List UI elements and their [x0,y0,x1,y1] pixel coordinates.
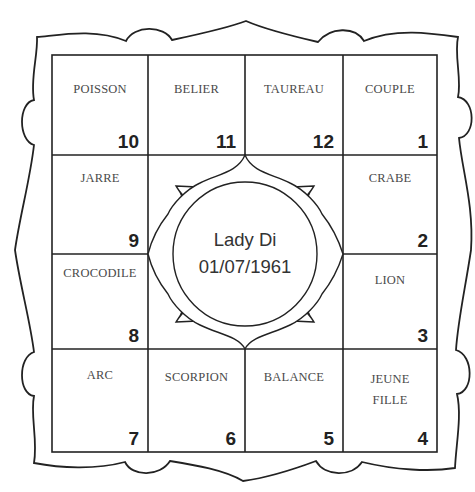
house-number: 11 [216,131,236,153]
house-number: 3 [417,325,428,347]
house-cell-2: CRABE 2 [343,155,437,254]
subject-name: Lady Di [185,229,305,251]
center-circle [173,182,317,326]
house-sign-label: CROCODILE [52,263,148,283]
house-sign-label: ARC [52,365,148,385]
house-sign-label: BALANCE [245,367,343,387]
house-cell-10: POISSON 10 [52,55,148,155]
house-cell-9: JARRE 9 [52,155,148,254]
house-cell-12: TAUREAU 12 [245,55,343,155]
lotus-zodiac-chart: POISSON 10 BELIER 11 TAUREAU 12 COUPLE 1… [0,0,475,492]
house-cell-5: BALANCE 5 [245,349,343,452]
lotus-emblem [148,155,343,349]
house-number: 12 [313,131,334,153]
house-cell-1: COUPLE 1 [343,55,437,155]
house-number: 8 [128,325,139,347]
house-cell-11: BELIER 11 [148,55,245,155]
house-sign-label: CRABE [343,168,437,188]
house-cell-3: LION 3 [343,254,437,349]
house-cell-6: SCORPION 6 [148,349,245,452]
house-number: 2 [417,230,428,252]
house-number: 6 [225,428,236,450]
house-sign-label: TAUREAU [245,79,343,99]
house-number: 1 [417,131,428,153]
house-number: 5 [323,428,334,450]
house-cell-8: CROCODILE 8 [52,254,148,349]
house-number: 7 [128,428,139,450]
house-cell-4: JEUNE FILLE 4 [343,349,437,452]
house-cell-7: ARC 7 [52,349,148,452]
house-sign-label: BELIER [148,79,245,99]
house-sign-label: POISSON [52,79,148,99]
house-number: 4 [417,428,428,450]
house-sign-label: LION [343,270,437,290]
house-sign-label: COUPLE [343,79,437,99]
house-number: 9 [128,230,139,252]
house-number: 10 [118,131,139,153]
house-sign-label: JARRE [52,168,148,188]
birth-date: 01/07/1961 [185,256,305,278]
house-sign-label: SCORPION [148,367,245,387]
house-sign-label: JEUNE FILLE [343,369,437,411]
